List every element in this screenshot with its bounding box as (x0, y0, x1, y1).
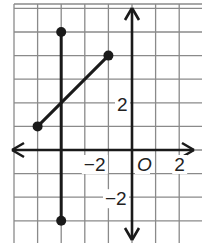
diagonal-segment (38, 56, 109, 127)
y-tick-label: −2 (105, 188, 127, 209)
coordinate-plane: −222−2O (0, 0, 202, 243)
origin-label: O (137, 154, 152, 175)
endpoint-dot (103, 51, 113, 61)
endpoint-dot (33, 121, 43, 131)
y-tick-label: 2 (117, 94, 128, 115)
endpoint-dot (56, 216, 66, 226)
x-tick-label: −2 (84, 154, 106, 175)
endpoint-dot (56, 27, 66, 37)
x-tick-label: 2 (174, 154, 185, 175)
tick-labels: −222−2O (82, 94, 187, 209)
